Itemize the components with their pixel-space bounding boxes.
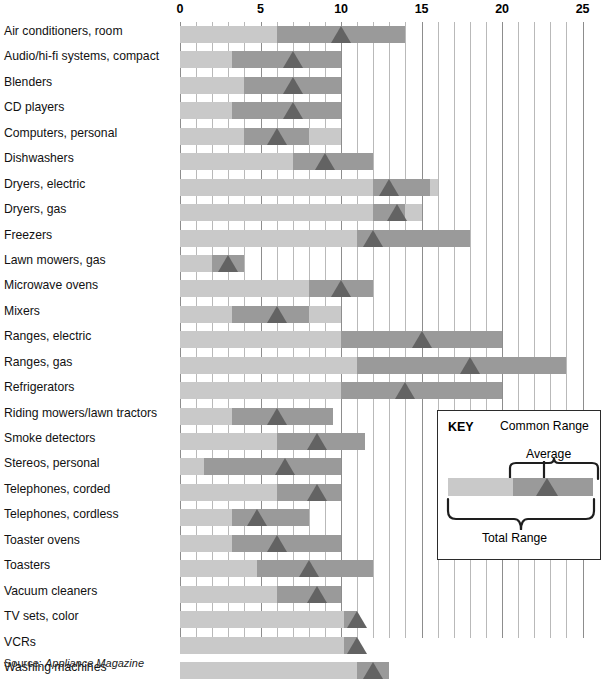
row-category-label: TV sets, color: [4, 608, 79, 624]
row-category-label: Dryers, gas: [4, 201, 66, 217]
legend-common-range-label: Common Range: [500, 419, 589, 433]
row-category-label: Dishwashers: [4, 150, 74, 166]
chart-row: TV sets, color: [0, 607, 608, 632]
row-category-label: Audio/hi-fi systems, compact: [4, 48, 159, 64]
row-category-label: Toasters: [4, 557, 50, 573]
average-marker-icon: [283, 51, 303, 68]
average-marker-icon: [267, 408, 287, 425]
legend-average-triangle-icon: [536, 478, 558, 496]
axis-tick-label: 0: [177, 2, 184, 16]
row-category-label: Stereos, personal: [4, 455, 100, 471]
average-marker-icon: [283, 102, 303, 119]
axis-tick-label: 25: [576, 2, 590, 16]
common-range-brace-icon: [508, 435, 600, 479]
row-category-label: Dryers, electric: [4, 176, 85, 192]
average-marker-icon: [267, 535, 287, 552]
average-marker-icon: [460, 357, 480, 374]
row-category-label: Lawn mowers, gas: [4, 252, 106, 268]
chart-row: Microwave ovens: [0, 276, 608, 301]
row-category-label: Blenders: [4, 74, 52, 90]
average-marker-icon: [299, 560, 319, 577]
chart-row: VCRs: [0, 633, 608, 658]
chart-row: Air conditioners, room: [0, 22, 608, 47]
chart-row: Refrigerators: [0, 378, 608, 403]
chart-row: Blenders: [0, 73, 608, 98]
chart-row: Freezers: [0, 226, 608, 251]
common-range-bar: [341, 382, 502, 399]
average-marker-icon: [307, 484, 327, 501]
common-range-bar: [204, 458, 341, 475]
chart-row: Vacuum cleaners: [0, 582, 608, 607]
row-category-label: Microwave ovens: [4, 277, 98, 293]
average-marker-icon: [275, 458, 295, 475]
average-marker-icon: [283, 77, 303, 94]
average-marker-icon: [395, 382, 415, 399]
row-category-label: Freezers: [4, 227, 52, 243]
chart-row: Dryers, electric: [0, 175, 608, 200]
average-marker-icon: [267, 306, 287, 323]
chart-row: Mixers: [0, 302, 608, 327]
chart-row: CD players: [0, 98, 608, 123]
chart-row: Toasters: [0, 556, 608, 581]
axis-tick-label: 20: [495, 2, 509, 16]
row-category-label: Telephones, corded: [4, 481, 110, 497]
legend-total-range-label: Total Range: [482, 531, 547, 545]
row-category-label: VCRs: [4, 634, 36, 650]
row-category-label: CD players: [4, 99, 64, 115]
source-note: Source: Appliance Magazine: [4, 657, 144, 669]
source-name: Appliance Magazine: [45, 657, 144, 669]
average-marker-icon: [267, 128, 287, 145]
average-marker-icon: [387, 204, 407, 221]
row-category-label: Refrigerators: [4, 379, 74, 395]
chart-row: Computers, personal: [0, 124, 608, 149]
row-category-label: Computers, personal: [4, 125, 117, 141]
average-marker-icon: [307, 433, 327, 450]
average-marker-icon: [331, 280, 351, 297]
row-category-label: Ranges, electric: [4, 328, 91, 344]
common-range-bar: [232, 509, 309, 526]
chart-row: Ranges, gas: [0, 353, 608, 378]
axis-tick-label: 15: [415, 2, 429, 16]
total-range-bar: [180, 611, 357, 628]
average-marker-icon: [363, 230, 383, 247]
average-marker-icon: [363, 662, 383, 679]
chart-row: Audio/hi-fi systems, compact: [0, 47, 608, 72]
row-category-label: Vacuum cleaners: [4, 583, 97, 599]
average-marker-icon: [315, 153, 335, 170]
appliance-lifespan-chart: 0510152025 Air conditioners, roomAudio/h…: [0, 0, 608, 687]
average-marker-icon: [218, 255, 238, 272]
average-marker-icon: [347, 637, 367, 654]
average-marker-icon: [379, 179, 399, 196]
row-category-label: Smoke detectors: [4, 430, 95, 446]
row-category-label: Toaster ovens: [4, 532, 80, 548]
chart-row: Dishwashers: [0, 149, 608, 174]
chart-row: Ranges, electric: [0, 327, 608, 352]
x-axis: 0510152025: [0, 0, 608, 22]
row-category-label: Mixers: [4, 303, 40, 319]
row-category-label: Air conditioners, room: [4, 23, 123, 39]
legend-key-title: KEY: [448, 420, 474, 434]
axis-tick-label: 10: [334, 2, 348, 16]
row-category-label: Ranges, gas: [4, 354, 72, 370]
chart-rows: Air conditioners, roomAudio/hi-fi system…: [0, 22, 608, 683]
axis-tick-label: 5: [257, 2, 264, 16]
row-category-label: Telephones, cordless: [4, 506, 119, 522]
legend-key-box: KEY Common Range Average Total Range: [437, 410, 601, 560]
total-range-brace-icon: [446, 499, 596, 533]
average-marker-icon: [331, 26, 351, 43]
average-marker-icon: [347, 611, 367, 628]
average-marker-icon: [412, 331, 432, 348]
average-marker-icon: [247, 509, 267, 526]
chart-row: Lawn mowers, gas: [0, 251, 608, 276]
total-range-bar: [180, 637, 357, 654]
chart-row: Dryers, gas: [0, 200, 608, 225]
source-prefix: Source:: [4, 657, 42, 669]
average-marker-icon: [307, 586, 327, 603]
row-category-label: Riding mowers/lawn tractors: [4, 405, 157, 421]
